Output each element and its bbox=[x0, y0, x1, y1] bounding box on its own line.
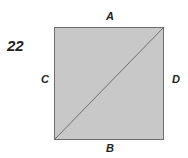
label-bottom: B bbox=[106, 143, 114, 154]
label-top: A bbox=[106, 11, 114, 22]
square-diagram bbox=[0, 0, 188, 158]
label-right: D bbox=[172, 74, 180, 85]
label-left: C bbox=[41, 74, 49, 85]
